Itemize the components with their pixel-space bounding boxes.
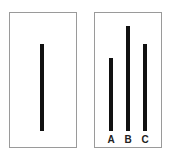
label-c: C [140,135,150,145]
comparison-line-a [109,58,113,131]
label-a: A [106,135,116,145]
label-b: B [123,135,133,145]
comparison-line-c [143,44,147,131]
reference-line [40,44,44,131]
comparison-line-b [126,26,130,131]
